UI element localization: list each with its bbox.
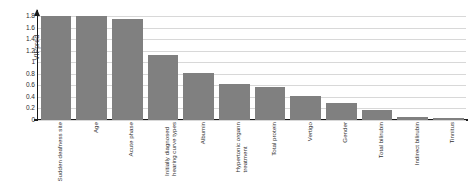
y-tick-label: 0.8 (26, 71, 35, 78)
x-tick-label-line: Sudden deafness site (56, 122, 63, 182)
y-tick-label: 0.6 (26, 82, 35, 89)
x-tick-label-line: Indirect bilirubin (413, 122, 420, 165)
bar-slot (323, 16, 359, 120)
bar-slot (181, 16, 217, 120)
y-tick-label: 0.2 (26, 105, 35, 112)
x-label-slot: Total bilirubin (359, 122, 395, 182)
bar-slot (288, 16, 324, 120)
x-tick-label: Initially diagnosedhearing curve types (163, 122, 177, 176)
y-tick-label: 0 (31, 117, 35, 124)
bar-slot (74, 16, 110, 120)
bar-slot (252, 16, 288, 120)
plot-area: 1.81.61.41.210.80.60.40.20 (38, 16, 466, 120)
x-tick-label: Albumin (199, 122, 206, 144)
x-label-slot: Initially diagnosedhearing curve types (145, 122, 181, 182)
x-tick-label-line: Age (92, 122, 99, 133)
x-tick-label-line: Acute phase (127, 122, 134, 156)
x-tick-label: Hypertonic organntreatment (234, 122, 248, 173)
bar (112, 19, 143, 120)
x-tick-label: Tinnitus (448, 122, 455, 143)
bar-slot (395, 16, 431, 120)
x-tick-label-line: Gender (341, 122, 348, 143)
x-tick-label-line: Initially diagnosed (163, 122, 170, 176)
x-label-slot: Indirect bilirubin (395, 122, 431, 182)
x-label-slot: Total protein (252, 122, 288, 182)
x-label-slot: Vertigo (288, 122, 324, 182)
x-tick-label: Acute phase (127, 122, 134, 156)
y-tick-label: 1.2 (26, 47, 35, 54)
bar-slot (216, 16, 252, 120)
y-tick-label: 1.4 (26, 36, 35, 43)
bar (362, 110, 393, 120)
x-tick-label: Sudden deafness site (56, 122, 63, 182)
x-label-slot: Sudden deafness site (38, 122, 74, 182)
bar (76, 16, 107, 120)
bar-slot (38, 16, 74, 120)
x-tick-label: Age (92, 122, 99, 133)
x-tick-label: Gender (341, 122, 348, 143)
y-tick-label: 0.4 (26, 94, 35, 101)
x-tick-label-line: Total bilirubin (377, 122, 384, 158)
x-axis-ticks: Sudden deafness siteAgeAcute phaseInitia… (38, 122, 466, 182)
bar (148, 55, 179, 120)
x-label-slot: Age (74, 122, 110, 182)
x-tick-label-line: treatment (241, 122, 248, 173)
bar-chart: VIPpred 1.81.61.41.210.80.60.40.20 Sudde… (0, 0, 472, 183)
bar-slot (109, 16, 145, 120)
bar (41, 16, 72, 120)
bar-series (38, 16, 466, 120)
x-tick-label-line: Vertigo (306, 122, 313, 141)
bar (326, 103, 357, 120)
x-label-slot: Hypertonic organntreatment (216, 122, 252, 182)
x-tick-label-line: hearing curve types (170, 122, 177, 176)
x-label-slot: Albumin (181, 122, 217, 182)
x-tick-label-line: Total protein (270, 122, 277, 156)
bar-slot (145, 16, 181, 120)
x-tick-label: Total bilirubin (377, 122, 384, 158)
x-tick-label: Vertigo (306, 122, 313, 141)
bar (183, 73, 214, 120)
x-label-slot: Gender (323, 122, 359, 182)
bar (255, 87, 286, 121)
x-tick-label-line: Tinnitus (448, 122, 455, 143)
x-tick-label: Indirect bilirubin (413, 122, 420, 165)
bar-slot (430, 16, 466, 120)
bar (433, 118, 464, 120)
x-label-slot: Tinnitus (430, 122, 466, 182)
x-tick-label-line: Albumin (199, 122, 206, 144)
bar-slot (359, 16, 395, 120)
bar (397, 117, 428, 120)
x-label-slot: Acute phase (109, 122, 145, 182)
bar (290, 96, 321, 120)
bar (219, 84, 250, 120)
y-tick-label: 1.8 (26, 13, 35, 20)
y-tick-label: 1.6 (26, 24, 35, 31)
y-tick-label: 1 (31, 59, 35, 66)
x-tick-label: Total protein (270, 122, 277, 156)
gridline (38, 120, 466, 121)
